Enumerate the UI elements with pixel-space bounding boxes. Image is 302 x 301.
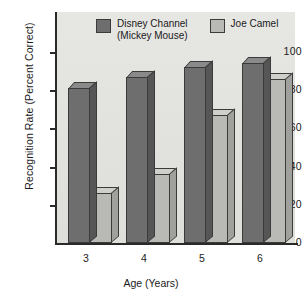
y-tick-100 (50, 52, 57, 54)
x-tick-label-5: 5 (182, 252, 222, 264)
x-tick-label-4: 4 (124, 252, 164, 264)
legend-label-joe-camel: Joe Camel (231, 18, 279, 30)
bar-side-face (227, 108, 235, 243)
bar-disney-age-6 (242, 63, 264, 243)
legend-label-disney: Disney Channel (Mickey Mouse) (117, 18, 188, 41)
bar-side-face (111, 187, 119, 243)
y-tick-20 (50, 205, 57, 207)
bar-side-face (169, 168, 177, 243)
bar-front-face (68, 88, 90, 243)
chart-legend: Disney Channel (Mickey Mouse) Joe Camel (96, 18, 278, 41)
y-tick-40 (50, 167, 57, 169)
x-tick-label-6: 6 (240, 252, 280, 264)
bar-disney-age-4 (126, 77, 148, 243)
x-axis-title: Age (Years) (0, 277, 302, 289)
bar-side-face (205, 61, 213, 243)
bar-front-face (242, 63, 264, 243)
bar-side-face (285, 72, 293, 243)
y-axis-title: Recognition Rate (Percent Correct) (23, 1, 35, 211)
legend-swatch-disney (96, 19, 111, 33)
y-tick-80 (50, 90, 57, 92)
y-tick-60 (50, 128, 57, 130)
chart-figure: 100 80 60 40 20 0 Recognition Rate (Perc… (0, 0, 302, 301)
legend-swatch-joe-camel (210, 19, 225, 33)
y-tick-label-100: 100 (256, 45, 302, 57)
x-tick-label-3: 3 (66, 252, 106, 264)
bar-disney-age-3 (68, 88, 90, 243)
bar-front-face (126, 77, 148, 243)
bar-front-face (184, 67, 206, 243)
legend-item-joe-camel: Joe Camel (210, 18, 279, 33)
bar-side-face (263, 57, 271, 243)
bar-side-face (147, 70, 155, 243)
legend-item-disney: Disney Channel (Mickey Mouse) (96, 18, 188, 41)
bar-disney-age-5 (184, 67, 206, 243)
bar-side-face (89, 82, 97, 243)
